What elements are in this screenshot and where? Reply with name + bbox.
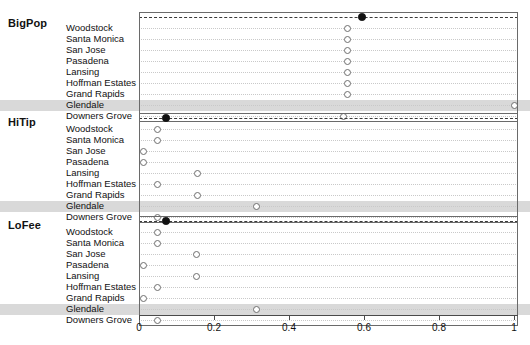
data-point[interactable] — [140, 295, 147, 302]
reference-dot[interactable] — [162, 114, 170, 122]
row-track — [139, 221, 518, 222]
row-label: Santa Monica — [66, 33, 134, 44]
data-point[interactable] — [253, 203, 260, 210]
row-track — [139, 151, 518, 152]
row-label: Hoffman Estates — [66, 77, 134, 88]
row-label: Glendale — [66, 99, 134, 110]
data-point[interactable] — [344, 69, 351, 76]
data-point[interactable] — [154, 181, 161, 188]
panel-rows: WoodstockSanta MonicaSan JosePasadenaLan… — [0, 113, 530, 223]
gridline — [139, 140, 518, 141]
axis-tick-label: 0.4 — [282, 322, 296, 333]
row-label: Grand Rapids — [66, 189, 134, 200]
row-track — [139, 50, 518, 51]
axis-tick — [514, 315, 515, 320]
data-point[interactable] — [154, 137, 161, 144]
axis-tick — [439, 315, 440, 320]
dot-plot-figure: BigPopWoodstockSanta MonicaSan JosePasad… — [0, 0, 530, 345]
row-track — [139, 17, 518, 18]
data-point[interactable] — [154, 284, 161, 291]
gridline — [139, 94, 518, 95]
gridline — [139, 243, 518, 244]
data-point[interactable] — [140, 148, 147, 155]
data-point[interactable] — [154, 229, 161, 236]
gridline — [139, 151, 518, 152]
row-label: Grand Rapids — [66, 88, 134, 99]
gridline — [139, 309, 518, 310]
row-label: Pasadena — [66, 55, 134, 66]
row-track — [139, 118, 518, 119]
data-point[interactable] — [344, 36, 351, 43]
data-point[interactable] — [140, 159, 147, 166]
panel-rows: WoodstockSanta MonicaSan JosePasadenaLan… — [0, 216, 530, 326]
row-track — [139, 39, 518, 40]
row-track — [139, 243, 518, 244]
data-point[interactable] — [511, 102, 518, 109]
data-point[interactable] — [344, 58, 351, 65]
data-point[interactable] — [194, 170, 201, 177]
axis-tick-label: 0.6 — [357, 322, 371, 333]
row-label: Woodstock — [66, 123, 134, 134]
data-point[interactable] — [154, 126, 161, 133]
row-label: Santa Monica — [66, 134, 134, 145]
gridline — [139, 184, 518, 185]
row-label: Lansing — [66, 66, 134, 77]
row-label: Santa Monica — [66, 237, 134, 248]
gridline — [139, 287, 518, 288]
reference-dot[interactable] — [162, 217, 170, 225]
row-label: Glendale — [66, 200, 134, 211]
row-label: Hoffman Estates — [66, 178, 134, 189]
row-track — [139, 173, 518, 174]
row-track — [139, 298, 518, 299]
row-track — [139, 105, 518, 106]
x-axis: 00.20.40.60.81 — [139, 315, 518, 345]
row-label: Downers Grove — [66, 314, 134, 325]
row-label: Glendale — [66, 303, 134, 314]
gridline — [139, 72, 518, 73]
reference-gridline — [139, 118, 518, 119]
data-point[interactable] — [253, 306, 260, 313]
row-label: San Jose — [66, 44, 134, 55]
gridline — [139, 28, 518, 29]
data-point[interactable] — [344, 91, 351, 98]
gridline — [139, 265, 518, 266]
axis-tick-label: 1 — [511, 322, 517, 333]
row-track — [139, 287, 518, 288]
axis-tick-label: 0 — [136, 322, 142, 333]
data-point[interactable] — [193, 273, 200, 280]
row-track — [139, 94, 518, 95]
row-track — [139, 83, 518, 84]
gridline — [139, 232, 518, 233]
data-point[interactable] — [344, 47, 351, 54]
gridline — [139, 206, 518, 207]
reference-dot[interactable] — [358, 13, 366, 21]
data-point[interactable] — [344, 80, 351, 87]
data-point[interactable] — [194, 192, 201, 199]
axis-tick — [364, 315, 365, 320]
row-track — [139, 140, 518, 141]
row-label: Pasadena — [66, 156, 134, 167]
row-label: Hoffman Estates — [66, 281, 134, 292]
axis-tick — [214, 315, 215, 320]
row-label: Woodstock — [66, 226, 134, 237]
axis-tick — [139, 315, 140, 320]
row-track — [139, 265, 518, 266]
data-point[interactable] — [140, 262, 147, 269]
row-label: Pasadena — [66, 259, 134, 270]
row-track — [139, 129, 518, 130]
gridline — [139, 50, 518, 51]
row-track — [139, 162, 518, 163]
row-label: Lansing — [66, 270, 134, 281]
row-track — [139, 28, 518, 29]
gridline — [139, 39, 518, 40]
row-track — [139, 232, 518, 233]
gridline — [139, 105, 518, 106]
axis-tick-label: 0.2 — [207, 322, 221, 333]
data-point[interactable] — [344, 25, 351, 32]
data-point[interactable] — [193, 251, 200, 258]
data-point[interactable] — [154, 240, 161, 247]
gridline — [139, 298, 518, 299]
reference-gridline — [139, 17, 518, 18]
axis-tick — [289, 315, 290, 320]
row-label: Woodstock — [66, 22, 134, 33]
